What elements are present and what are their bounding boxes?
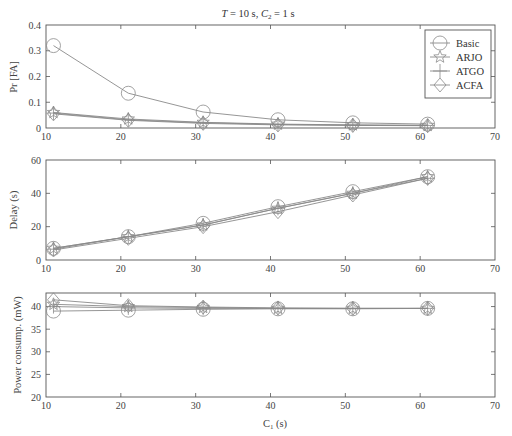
y-tick-label: 0.4 <box>29 20 42 31</box>
svg-text:ARJO: ARJO <box>456 52 483 63</box>
atgo-plus-marker-icon <box>421 171 435 185</box>
x-tick-label: 40 <box>266 263 276 274</box>
series-acfa <box>47 293 433 316</box>
y-tick-label: 35 <box>31 324 41 335</box>
x-tick-label: 70 <box>490 400 500 411</box>
x-tick-label: 70 <box>490 131 500 142</box>
x-tick-label: 20 <box>116 400 126 411</box>
x-tick-label: 30 <box>191 131 201 142</box>
x-tick-label: 20 <box>116 263 126 274</box>
x-tick-label: 30 <box>191 400 201 411</box>
chart-title: T = 10 s, C2 = 1 s <box>221 8 294 21</box>
series-acfa <box>47 171 433 257</box>
chart-figure: T = 10 s, C2 = 1 s 1020304050607000.10.2… <box>0 0 512 436</box>
x-tick-label: 10 <box>41 131 51 142</box>
svg-text:ATGO: ATGO <box>456 66 484 77</box>
y-axis-label-power: Power consump. (mW) <box>12 296 24 394</box>
series-arjo <box>47 170 434 253</box>
x-tick-label: 10 <box>41 400 51 411</box>
svg-text:ACFA: ACFA <box>456 80 484 91</box>
x-tick-label: 40 <box>266 400 276 411</box>
y-tick-label: 60 <box>31 155 41 166</box>
x-tick-label: 60 <box>415 400 425 411</box>
x-tick-label: 70 <box>490 263 500 274</box>
y-tick-label: 0.2 <box>29 71 42 82</box>
x-axis-label: C1 (s) <box>263 418 288 431</box>
x-tick-label: 60 <box>415 263 425 274</box>
y-axis-label-false-alarm: Pr [FA] <box>8 61 19 93</box>
series-acfa <box>47 107 433 133</box>
y-tick-label: 0.3 <box>29 45 42 56</box>
y-tick-label: 0 <box>36 255 41 266</box>
power-panel: 102030405060702025303540 <box>31 293 500 411</box>
y-tick-label: 20 <box>31 221 41 232</box>
y-tick-label: 0 <box>36 123 41 134</box>
y-tick-label: 0.1 <box>29 97 42 108</box>
series-atgo <box>46 106 434 132</box>
legend-entry-acfa: ACFA <box>430 78 484 92</box>
basic-circle-marker-icon <box>46 39 60 53</box>
series-basic <box>46 170 434 256</box>
x-tick-label: 10 <box>41 263 51 274</box>
x-tick-label: 50 <box>340 131 350 142</box>
delay-panel: 102030405060700204060 <box>31 155 500 275</box>
svg-text:Basic: Basic <box>456 38 480 49</box>
y-tick-label: 30 <box>31 346 41 357</box>
series-arjo <box>47 298 434 314</box>
legend: BasicARJOATGOACFA <box>425 30 491 98</box>
x-tick-label: 50 <box>340 400 350 411</box>
series-atgo <box>46 171 434 256</box>
x-tick-label: 20 <box>116 131 126 142</box>
y-tick-label: 40 <box>31 188 41 199</box>
y-tick-label: 25 <box>31 369 41 380</box>
x-tick-label: 40 <box>266 131 276 142</box>
x-tick-label: 50 <box>340 263 350 274</box>
x-tick-label: 60 <box>415 131 425 142</box>
y-tick-label: 40 <box>31 301 41 312</box>
y-axis-label-delay: Delay (s) <box>8 190 20 229</box>
x-tick-label: 30 <box>191 263 201 274</box>
y-tick-label: 20 <box>31 392 41 403</box>
